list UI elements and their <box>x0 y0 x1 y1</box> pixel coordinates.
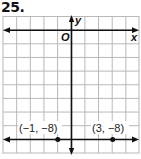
x-axis-label: x <box>130 31 138 43</box>
point-neg1-neg8 <box>55 137 60 142</box>
y-axis-label: y <box>74 14 82 26</box>
point-label-1: (−1, −8) <box>19 122 58 134</box>
origin-label: O <box>61 31 70 43</box>
point-3-neg8 <box>110 137 115 142</box>
coordinate-graph: y x O (−1, −8) (3, −8) <box>0 0 141 159</box>
point-label-2: (3, −8) <box>92 122 124 134</box>
